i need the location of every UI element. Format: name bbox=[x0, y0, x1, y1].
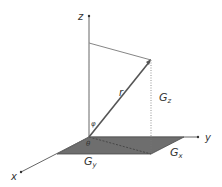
gy-label: Gy bbox=[84, 155, 98, 169]
projection-line-top bbox=[89, 43, 151, 60]
x-axis-tip bbox=[20, 171, 22, 173]
gx-label: Gx bbox=[170, 146, 184, 160]
x-axis bbox=[21, 137, 89, 172]
vector-r-label: r bbox=[119, 87, 124, 98]
y-axis-label: y bbox=[204, 132, 212, 143]
diagram-canvas: z y x r φ θ Gz Gx Gy bbox=[0, 0, 222, 187]
coordinate-diagram: z y x r φ θ Gz Gx Gy bbox=[0, 0, 222, 187]
z-axis-tip bbox=[88, 15, 90, 17]
phi-angle-label: φ bbox=[91, 120, 96, 128]
vector-r bbox=[89, 61, 150, 137]
gz-label: Gz bbox=[159, 91, 172, 105]
y-axis-tip bbox=[197, 136, 199, 138]
x-axis-label: x bbox=[10, 171, 17, 182]
z-axis-label: z bbox=[77, 11, 84, 22]
theta-angle-label: θ bbox=[86, 140, 91, 148]
